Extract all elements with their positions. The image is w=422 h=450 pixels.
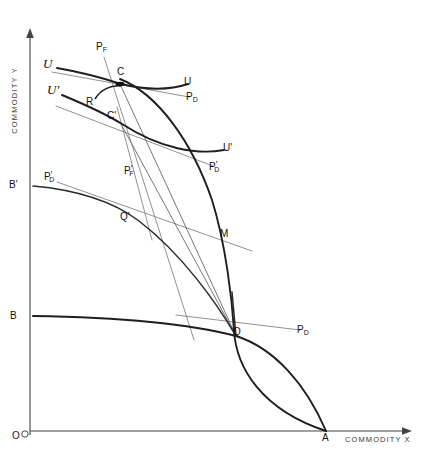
price-label-PD-prime-at-C-prime: P′D xyxy=(209,159,219,173)
price-label-PD-q-sub: D xyxy=(304,329,309,336)
price-label-PD-base: P xyxy=(186,91,193,102)
point-label-B: B xyxy=(10,310,17,321)
point-label-A: A xyxy=(322,432,329,443)
x-axis-label: COMMODITY X xyxy=(345,435,411,444)
price-label-PD-q-base: P xyxy=(297,324,304,335)
price-label-PD-prime-at-Q-prime: P′D xyxy=(44,169,54,183)
diagram-page: COMMODITY Y COMMODITY X O A B B' C C' R … xyxy=(0,0,422,450)
y-axis-label: COMMODITY Y xyxy=(10,65,19,137)
point-label-B-prime: B' xyxy=(9,179,18,190)
price-label-PD-prime-q-sub: D xyxy=(49,176,54,183)
price-label-PD-at-C: PD xyxy=(186,91,198,103)
point-label-M: M xyxy=(220,228,228,239)
point-label-C-prime: C' xyxy=(107,110,116,121)
point-label-C: C xyxy=(117,66,124,77)
point-label-Q-prime: Q' xyxy=(120,211,130,222)
price-label-PD-prime-sub: D xyxy=(214,166,219,173)
price-label-PD-sub: D xyxy=(193,96,198,103)
price-label-PF-base: P xyxy=(96,41,103,52)
price-label-PF-sub: F xyxy=(103,46,107,53)
price-label-PF: PF xyxy=(96,41,107,53)
curve-label-U-right: U xyxy=(184,76,191,87)
point-label-Q: Q xyxy=(233,326,241,337)
curve-label-U-prime-right: U' xyxy=(223,142,232,153)
curve-label-U-prime-left: U' xyxy=(47,82,59,98)
price-label-PD-at-Q: PD xyxy=(297,324,309,336)
curve-label-U-left: U xyxy=(43,56,52,72)
price-label-PF-prime: P′F xyxy=(124,163,134,177)
price-label-PF-prime-sub: F xyxy=(129,170,133,177)
origin-label: O xyxy=(12,430,20,441)
point-label-R: R xyxy=(86,96,93,107)
